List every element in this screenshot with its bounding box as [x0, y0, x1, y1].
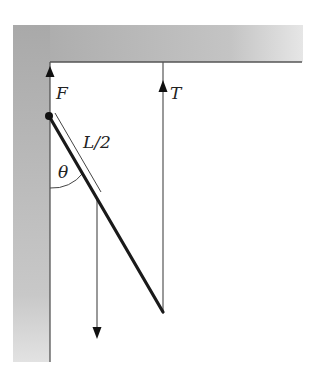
ceiling [13, 25, 303, 62]
label-f: F [55, 83, 69, 103]
wall [13, 25, 50, 362]
label-t: T [170, 83, 183, 103]
label-theta: θ [58, 162, 68, 182]
tension-t-arrowhead-icon [159, 80, 168, 92]
label-half-length: L/2 [82, 132, 111, 152]
hinge-point [45, 112, 53, 120]
rod-wall-diagram: F T L/2 θ [0, 0, 323, 373]
weight-arrowhead-icon [93, 327, 102, 339]
